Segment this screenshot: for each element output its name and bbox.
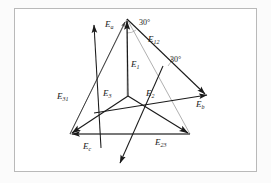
label-ea: Ea: [105, 20, 114, 30]
label-ec: Ec: [83, 142, 91, 152]
vector-ec: [120, 66, 163, 163]
construction-lines: [70, 19, 190, 134]
label-e23: E23: [155, 138, 167, 148]
vector-e12: [127, 19, 205, 94]
label-e2: E2: [146, 89, 155, 99]
label-e3: E3: [103, 89, 112, 99]
star-vectors: [72, 21, 188, 133]
angle-label-upper: 30°: [139, 19, 150, 27]
label-eb: Eb: [196, 100, 205, 110]
vector-e31: [70, 22, 125, 134]
label-e1: E1: [131, 60, 140, 70]
vector-ea: [94, 25, 101, 148]
label-e31: E31: [57, 92, 69, 102]
line-voltage-vectors: [70, 19, 205, 134]
label-e12: E12: [148, 35, 160, 45]
phasor-diagram: [0, 0, 271, 183]
angle-label-lower: 30°: [170, 56, 181, 64]
